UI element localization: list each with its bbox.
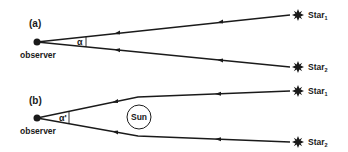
deflected-ray-star1 xyxy=(37,91,290,118)
arrowhead-icon xyxy=(215,92,221,96)
observer-dot-icon xyxy=(34,115,41,122)
deflected-ray-star2 xyxy=(37,118,290,142)
angle-alpha-prime-label: α' xyxy=(59,113,67,123)
observer-label: observer xyxy=(20,50,57,60)
star1-icon xyxy=(292,85,304,97)
star1-label: Star1 xyxy=(308,10,328,21)
star1-icon xyxy=(292,9,304,21)
panel-b: (b) α' Sun observer Star1 Star2 xyxy=(20,85,328,148)
star1-label: Star1 xyxy=(308,86,328,97)
light-deflection-diagram: (a) α observer Star1 Star2 (b) xyxy=(0,0,348,152)
arrowhead-icon xyxy=(215,137,221,141)
star2-label: Star2 xyxy=(308,137,328,148)
star2-icon xyxy=(292,61,304,73)
sun-label: Sun xyxy=(131,112,147,122)
observer-dot-icon xyxy=(34,39,41,46)
light-ray-star2 xyxy=(37,42,290,67)
panel-a: (a) α observer Star1 Star2 xyxy=(20,9,328,73)
angle-alpha-label: α xyxy=(77,37,83,47)
star2-label: Star2 xyxy=(308,62,328,73)
light-ray-star1 xyxy=(37,15,290,42)
panel-b-label: (b) xyxy=(29,95,42,106)
star2-icon xyxy=(292,136,304,148)
panel-a-label: (a) xyxy=(29,18,41,29)
observer-label: observer xyxy=(20,126,57,136)
arrowhead-icon xyxy=(112,99,118,103)
